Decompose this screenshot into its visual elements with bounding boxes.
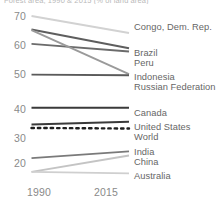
- y-tick-label: 30: [2, 132, 26, 144]
- y-tick-label: 70: [2, 10, 26, 22]
- series-label: Peru: [134, 58, 154, 68]
- series-label: Russian Federation: [134, 82, 216, 92]
- series-label: Brazil: [134, 48, 158, 58]
- y-tick-label: 60: [2, 39, 26, 51]
- y-tick-label: 40: [2, 103, 26, 115]
- series-line: [32, 122, 130, 125]
- series-label: Canada: [134, 108, 167, 118]
- series-label: China: [134, 157, 159, 167]
- y-tick-label: 50: [2, 68, 26, 80]
- forest-area-line-chart: Forest area, 1990 & 2015 (% of land area…: [0, 0, 218, 206]
- series-label: World: [134, 132, 158, 142]
- series-line: [32, 30, 130, 74]
- series-line: [32, 16, 130, 33]
- series-label: Congo, Dem. Rep.: [134, 22, 212, 32]
- series-label: Australia: [134, 171, 171, 181]
- series-line: [32, 75, 130, 76]
- series-lines-group: [32, 16, 130, 173]
- y-tick-label: 20: [2, 157, 26, 169]
- x-tick-label: 1990: [27, 186, 51, 198]
- series-label: Indonesia: [134, 72, 175, 82]
- series-line: [32, 172, 130, 173]
- x-tick-label: 2015: [94, 186, 118, 198]
- series-label: India: [134, 147, 154, 157]
- series-label: United States: [134, 122, 190, 132]
- series-line: [32, 128, 130, 129]
